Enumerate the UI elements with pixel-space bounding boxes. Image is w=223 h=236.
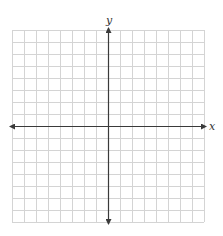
y-axis-label: y [105, 14, 113, 27]
x-axis-label: x [209, 120, 216, 133]
coordinate-plane: x y [0, 0, 223, 236]
